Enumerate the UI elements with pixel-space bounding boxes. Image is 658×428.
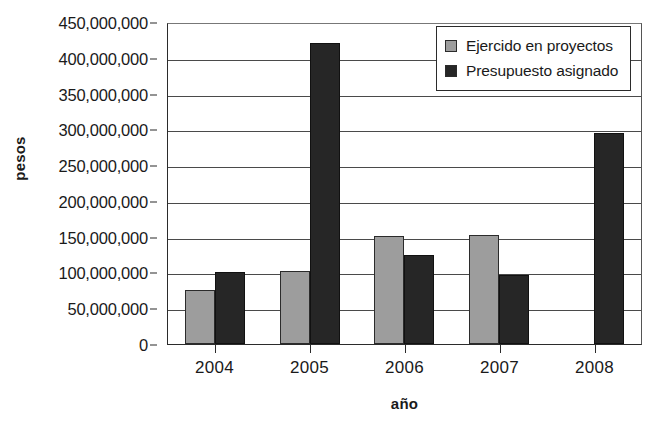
x-axis-tick-label: 2008 xyxy=(547,358,642,384)
y-axis-tick-label: 50,000,000 xyxy=(67,300,148,319)
legend-label: Ejercido en proyectos xyxy=(466,37,613,55)
legend-label: Presupuesto asignado xyxy=(466,62,618,80)
bar xyxy=(594,133,624,344)
y-axis-tick-label: 100,000,000 xyxy=(58,264,148,283)
x-axis-tick-mark xyxy=(310,345,311,353)
legend-item: Presupuesto asignado xyxy=(445,58,618,83)
bar xyxy=(310,43,340,344)
x-axis-tick-label: 2004 xyxy=(167,358,262,384)
x-axis-tick-label: 2005 xyxy=(262,358,357,384)
y-axis-tick-mark xyxy=(150,166,157,167)
x-axis-tick-mark xyxy=(500,345,501,353)
bar xyxy=(280,271,310,344)
y-axis-tick-mark xyxy=(150,345,157,346)
x-axis-tick-mark xyxy=(405,345,406,353)
x-axis-tick-cell xyxy=(262,345,357,355)
y-axis-tick-mark xyxy=(150,273,157,274)
legend-swatch-icon xyxy=(445,65,457,77)
y-axis-tick-label: 450,000,000 xyxy=(58,14,148,33)
x-axis-tick-cell xyxy=(547,345,642,355)
y-axis-tick-label: 200,000,000 xyxy=(58,192,148,211)
y-axis-tick-label: 400,000,000 xyxy=(58,49,148,68)
legend-item: Ejercido en proyectos xyxy=(445,33,618,58)
bar xyxy=(215,272,245,344)
y-axis-tick-mark xyxy=(150,309,157,310)
y-axis-tick-mark xyxy=(150,94,157,95)
x-axis-tick-mark xyxy=(595,345,596,353)
y-axis-tick-label: 250,000,000 xyxy=(58,157,148,176)
x-axis-tick-cell xyxy=(167,345,262,355)
bar xyxy=(185,290,215,344)
bar-chart: pesos 050,000,000100,000,000150,000,0002… xyxy=(0,0,658,428)
y-axis-tick-mark xyxy=(150,237,157,238)
bar xyxy=(374,236,404,344)
legend-swatch-icon xyxy=(445,40,457,52)
x-axis-tick-labels: 20042005200620072008 xyxy=(167,358,642,384)
bar-group xyxy=(263,24,358,344)
x-axis-tick-cell xyxy=(452,345,547,355)
bar xyxy=(469,235,499,344)
bar-group xyxy=(168,24,263,344)
y-axis-tick-mark xyxy=(150,201,157,202)
x-axis-tick-mark xyxy=(215,345,216,353)
x-axis-tick-label: 2007 xyxy=(452,358,547,384)
y-axis-tick-label: 150,000,000 xyxy=(58,228,148,247)
x-axis-tick-cell xyxy=(357,345,452,355)
chart-legend: Ejercido en proyectosPresupuesto asignad… xyxy=(436,26,631,91)
bar xyxy=(404,255,434,344)
bar xyxy=(499,275,529,344)
y-axis-tick-mark xyxy=(150,130,157,131)
y-axis-ticks: 050,000,000100,000,000150,000,000200,000… xyxy=(28,23,156,345)
x-axis-tick-marks xyxy=(167,345,642,355)
y-axis-tick-label: 350,000,000 xyxy=(58,85,148,104)
y-axis-tick-label: 300,000,000 xyxy=(58,121,148,140)
x-axis-tick-label: 2006 xyxy=(357,358,452,384)
y-axis-title: pesos xyxy=(11,114,28,204)
y-axis-tick-mark xyxy=(150,23,157,24)
y-axis-tick-label: 0 xyxy=(139,336,148,355)
y-axis-tick-mark xyxy=(150,58,157,59)
x-axis-title: año xyxy=(167,395,642,412)
